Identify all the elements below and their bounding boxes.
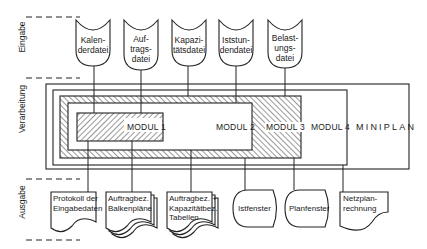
modul-2-label: MODUL 2 — [216, 122, 255, 132]
input-label-line: datei — [268, 53, 302, 63]
output-label-line: Netzplan- — [343, 194, 377, 204]
output-label-line: Protokoll der — [53, 194, 102, 204]
input-file-auftragsdatei: Auf- trags- datei — [124, 34, 158, 64]
input-label-line: ungs- — [268, 43, 302, 53]
input-file-kapazitaetsdatei: Kapazi- tätsdatei — [170, 35, 208, 55]
miniplan-label: MINIPLAN — [356, 122, 416, 132]
modul-3-label: MODUL 3 — [265, 122, 306, 132]
output-label-line: Auftragbez. — [108, 194, 152, 204]
output-netzplanrechnung: Netzplan- rechnung — [343, 194, 377, 213]
output-protokoll: Protokoll der Eingabedaten — [53, 194, 102, 213]
output-label-line: Eingabedaten — [53, 204, 102, 214]
output-label-line: Balkenpläne — [108, 204, 152, 214]
input-label-line: Belast- — [268, 33, 302, 43]
modul-1-label: MODUL 1 — [127, 122, 166, 132]
input-label-line: Iststun- — [217, 35, 255, 45]
input-file-kalenderdatei: Kalen- derdatei — [76, 35, 110, 55]
output-label-line: rechnung — [343, 204, 377, 214]
output-label-line: Auftragbez. + — [169, 194, 217, 204]
input-file-belastungsdatei: Belast- ungs- datei — [268, 33, 302, 63]
input-label-line: trags- — [124, 44, 158, 54]
section-label-input: Eingabe — [17, 0, 27, 77]
input-label-line: Kapazi- — [170, 35, 208, 45]
output-istfenster: Istfenster — [238, 204, 271, 214]
input-label-line: Kalen- — [76, 35, 110, 45]
input-label-line: derdatei — [76, 45, 110, 55]
input-label-line: datei — [124, 54, 158, 64]
input-label-line: Auf- — [124, 34, 158, 44]
section-label-output: Ausgabe — [17, 162, 27, 242]
output-planfenster: Planfenster — [289, 204, 329, 214]
input-label-line: dendatei — [217, 45, 255, 55]
input-file-iststundendatei: Iststun- dendatei — [217, 35, 255, 55]
modul-4-label: MODUL 4 — [311, 122, 350, 132]
output-tabellen: Auftragbez. + Kapazitätbez. Tabellen — [169, 194, 217, 223]
output-label-line: Kapazitätbez. — [169, 204, 217, 214]
output-balkenplaene: Auftragbez. Balkenpläne — [108, 194, 152, 213]
output-label-line: Tabellen — [169, 213, 217, 223]
output-label-line: Planfenster — [289, 204, 329, 214]
output-label-line: Istfenster — [238, 204, 271, 214]
section-label-processing: Verarbeitung — [17, 69, 27, 149]
input-label-line: tätsdatei — [170, 45, 208, 55]
